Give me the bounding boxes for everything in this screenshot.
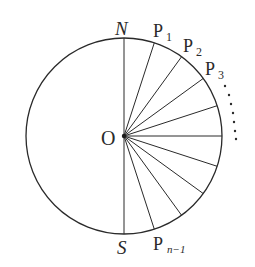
label-origin: O: [101, 127, 115, 149]
label-pn1: P n−1: [153, 234, 185, 255]
spoke-pn1: [124, 136, 154, 229]
svg-text:2: 2: [196, 45, 202, 59]
label-p3: P 3: [205, 59, 224, 82]
svg-text:n−1: n−1: [167, 243, 185, 255]
spoke-4: [124, 106, 217, 136]
svg-text:3: 3: [218, 68, 224, 82]
label-p1: P 1: [153, 21, 172, 44]
spoke-p1: [124, 43, 154, 136]
spoke-7: [124, 136, 203, 194]
label-p2: P 2: [183, 36, 202, 59]
spoke-8: [124, 136, 182, 215]
spoke-p2: [124, 57, 182, 136]
spoke-p3: [124, 78, 203, 136]
spoke-6: [124, 136, 217, 166]
svg-text:P: P: [153, 234, 163, 254]
label-north: N: [114, 18, 129, 39]
origin-point: [122, 134, 126, 138]
svg-text:1: 1: [166, 30, 172, 44]
svg-text:P: P: [183, 36, 193, 56]
circle-diagram: N S O P 1 P 2 P 3 P n−1: [0, 0, 255, 267]
label-south: S: [117, 237, 127, 258]
svg-text:P: P: [153, 21, 163, 41]
svg-text:P: P: [205, 59, 215, 79]
ellipsis-dots: [224, 85, 237, 140]
